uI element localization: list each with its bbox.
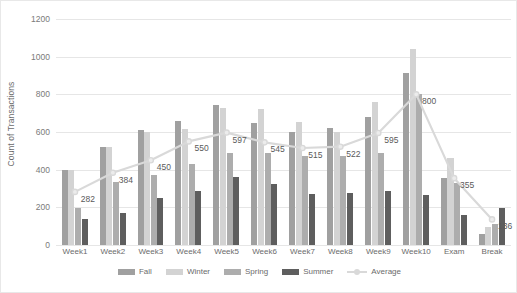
average-data-label: 595 [384,135,398,145]
average-data-label: 597 [233,135,247,145]
x-axis-tick-label: Week1 [63,247,88,256]
average-marker [110,170,115,175]
average-marker [452,176,457,181]
legend-item-fall[interactable]: Fall [118,267,152,276]
y-axis-tick-label: 800 [16,89,50,99]
average-data-label: 282 [81,194,95,204]
legend-item-summer[interactable]: Summer [282,267,333,276]
average-data-label: 550 [195,143,209,153]
average-data-label: 522 [346,149,360,159]
average-data-label: 515 [308,150,322,160]
average-data-label: 450 [157,162,171,172]
average-data-label: 136 [498,221,512,231]
y-axis-tick-label: 1200 [16,14,50,24]
average-marker [72,189,77,194]
legend-line-marker [347,268,367,276]
average-marker [376,130,381,135]
legend-item-spring[interactable]: Spring [224,267,268,276]
chart-legend: FallWinterSpringSummerAverage [1,267,517,276]
x-axis-tick-label: Week7 [290,247,315,256]
x-axis-tick-label: Week6 [252,247,277,256]
average-marker [186,139,191,144]
x-axis-tick-label: Week8 [328,247,353,256]
legend-label: Average [371,267,401,276]
average-polyline [75,94,492,219]
average-marker [300,145,305,150]
legend-swatch [166,269,183,275]
average-marker [338,144,343,149]
gridline [56,245,511,246]
legend-swatch [118,269,135,275]
legend-swatch [224,269,241,275]
average-marker [148,158,153,163]
x-axis-tick-label: Break [482,247,503,256]
average-marker [224,130,229,135]
legend-swatch [282,269,299,275]
legend-label: Winter [187,267,210,276]
y-axis-tick-label: 0 [16,240,50,250]
y-axis-tick-label: 200 [16,202,50,212]
y-axis-tick-label: 1000 [16,52,50,62]
legend-label: Spring [245,267,268,276]
legend-item-winter[interactable]: Winter [166,267,210,276]
x-axis-tick-label: Week5 [214,247,239,256]
y-axis-tick-label: 600 [16,127,50,137]
x-axis-tick-label: Exam [444,247,464,256]
x-axis-tick-label: Week9 [366,247,391,256]
average-data-label: 800 [422,96,436,106]
average-data-label: 384 [119,175,133,185]
average-marker [262,140,267,145]
x-axis-tick-label: Week10 [402,247,431,256]
legend-item-average[interactable]: Average [347,267,401,276]
average-line [56,19,511,245]
plot-area: 020040060080010001200 282384450550597545… [56,19,511,245]
legend-label: Fall [139,267,152,276]
average-data-label: 545 [270,144,284,154]
x-axis-tick-label: Week4 [176,247,201,256]
y-axis-title-text: Count of Transactions [6,81,16,166]
average-data-label: 355 [460,180,474,190]
x-axis-tick-label: Week3 [138,247,163,256]
x-axis-ticks: Week1Week2Week3Week4Week5Week6Week7Week8… [56,247,511,261]
average-marker [414,92,419,97]
y-axis-tick-label: 400 [16,165,50,175]
average-marker [489,217,494,222]
chart-container: Count of Transactions 020040060080010001… [0,0,517,293]
legend-label: Summer [303,267,333,276]
x-axis-tick-label: Week2 [100,247,125,256]
